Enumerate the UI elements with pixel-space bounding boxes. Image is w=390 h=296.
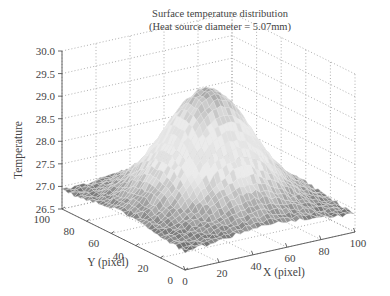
x-tick-label: 100 (350, 237, 367, 249)
x-tick-label: 60 (285, 252, 297, 264)
z-tick-label: 26.5 (36, 203, 56, 215)
z-tick-label: 27.0 (36, 180, 56, 192)
z-tick-label: 30.0 (36, 45, 56, 57)
x-axis-label: X (pixel) (263, 266, 305, 279)
y-axis-label: Y (pixel) (87, 256, 129, 269)
z-tick-label: 29.0 (36, 90, 56, 102)
surface-plot: 02040608010002040608010026.527.027.528.0… (0, 0, 390, 296)
z-tick-label: 28.5 (36, 113, 56, 125)
x-tick-label: 80 (319, 245, 331, 257)
z-tick-label: 29.5 (36, 68, 56, 80)
y-tick-label: 20 (137, 262, 149, 274)
z-tick-label: 28.0 (36, 135, 56, 147)
z-axis-label: Temperature (12, 121, 25, 179)
z-tick-label: 27.5 (36, 158, 56, 170)
x-tick-label: 20 (217, 267, 229, 279)
y-tick-label: 80 (64, 225, 76, 237)
y-tick-label: 60 (88, 237, 100, 249)
y-tick-label: 0 (168, 274, 174, 286)
temperature-surface (62, 87, 355, 253)
x-tick-label: 0 (182, 275, 188, 287)
x-tick-label: 40 (251, 260, 263, 272)
